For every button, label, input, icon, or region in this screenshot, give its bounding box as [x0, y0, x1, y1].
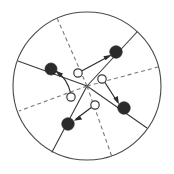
node-open — [98, 75, 106, 83]
node-filled — [62, 118, 74, 130]
radial-node-diagram — [0, 0, 174, 174]
node-filled — [45, 63, 57, 75]
figure-root — [0, 0, 174, 174]
node-open — [74, 69, 82, 77]
node-open — [91, 101, 99, 109]
node-filled — [110, 46, 122, 58]
node-open — [67, 93, 75, 101]
node-filled — [118, 102, 130, 114]
